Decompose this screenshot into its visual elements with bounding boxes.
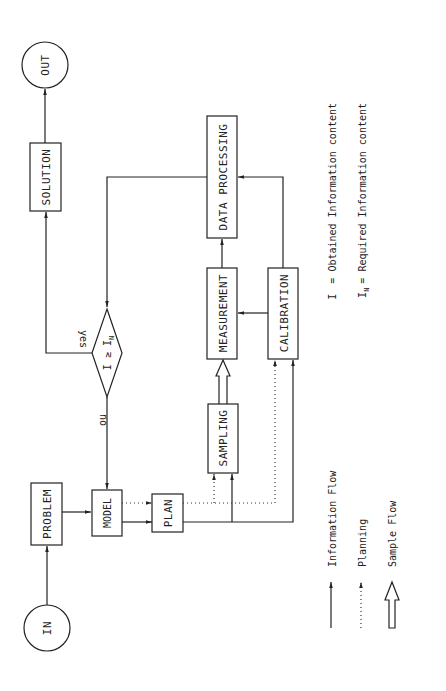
calibration-label: CALIBRATION: [278, 274, 291, 352]
data-processing-label: DATA PROCESSING: [217, 124, 230, 231]
problem-box: PROBLEM: [31, 483, 62, 545]
yes-label: yes: [78, 330, 89, 348]
edge-calibration-dataprocessing: [238, 177, 283, 268]
measurement-label: MEASUREMENT: [217, 274, 230, 352]
legend-line-types: Information Flow Planning Sample Flow: [327, 470, 399, 628]
legend-sample-flow-arrow: [385, 582, 399, 628]
legend-planning-label: Planning: [357, 519, 368, 567]
in-node: IN: [24, 605, 70, 651]
sampling-box: SAMPLING: [208, 404, 238, 473]
data-processing-box: DATA PROCESSING: [207, 116, 237, 238]
sample-flow-sampling-measurement: [216, 360, 230, 404]
calibration-box: CALIBRATION: [268, 268, 298, 359]
plan-box: PLAN: [152, 494, 183, 532]
edge-dataprocessing-decision: [107, 177, 207, 307]
sampling-label: SAMPLING: [217, 410, 230, 467]
plan-label: PLAN: [162, 499, 175, 528]
problem-label: PROBLEM: [41, 489, 54, 539]
in-label: IN: [41, 621, 54, 635]
legend-def-obtained: I= Obtained Information content: [327, 103, 338, 300]
flow-diagram: IN PROBLEM MODEL PLAN SAMPLING MEASUREME…: [0, 0, 446, 691]
legend-sample-flow-label: Sample Flow: [387, 500, 398, 567]
out-node: OUT: [22, 42, 68, 88]
measurement-box: MEASUREMENT: [207, 268, 237, 359]
legend-definitions: I= Obtained Information content IN= Requ…: [327, 103, 371, 300]
legend-info-flow-label: Information Flow: [327, 470, 338, 567]
decision-diamond: I ≥ IN: [92, 309, 122, 397]
legend-def-required: IN= Required Information content: [357, 103, 371, 298]
out-label: OUT: [39, 54, 52, 75]
solution-label: SOLUTION: [40, 149, 53, 206]
no-label: no: [98, 414, 109, 426]
model-label: MODEL: [102, 498, 113, 528]
solution-box: SOLUTION: [30, 143, 61, 211]
model-box: MODEL: [92, 490, 122, 536]
